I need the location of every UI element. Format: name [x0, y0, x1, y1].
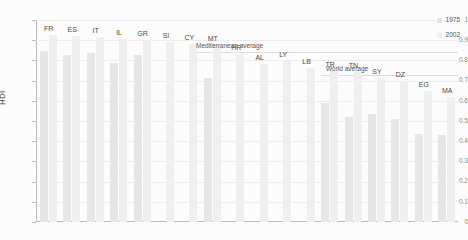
- bar: [134, 55, 142, 222]
- reference-line-label: World average: [326, 66, 368, 73]
- bar-group: [204, 20, 222, 222]
- y-axis-label: HDI: [0, 91, 7, 105]
- bar: [354, 72, 362, 222]
- category-label-ly: LY: [268, 51, 298, 58]
- bar-group: [63, 20, 81, 222]
- y-tick-mark: [32, 222, 36, 223]
- bar: [321, 103, 329, 222]
- reference-line-label: Mediterranean average: [196, 43, 263, 50]
- bar: [368, 114, 376, 222]
- bar: [87, 53, 95, 222]
- bar-group: [134, 20, 152, 222]
- bar-group: [345, 20, 363, 222]
- bar: [40, 51, 48, 222]
- bar: [391, 119, 399, 222]
- legend: 19752002: [437, 16, 460, 46]
- legend-item: 2002: [437, 31, 460, 39]
- bar: [345, 117, 353, 222]
- category-label-mt: MT: [198, 35, 228, 42]
- bar: [260, 64, 268, 222]
- hdi-bar-chart: HDI 10.90.80.70.60.50.40.30.20.10 FRESIT…: [0, 0, 468, 240]
- bar-group: [87, 20, 105, 222]
- bar: [424, 91, 432, 222]
- bar: [72, 36, 80, 222]
- bar: [63, 55, 71, 222]
- bar: [119, 39, 127, 222]
- bar-group: [321, 20, 339, 222]
- bar-group: [40, 20, 58, 222]
- bar: [96, 37, 104, 222]
- bar: [143, 40, 151, 222]
- bar: [189, 44, 197, 222]
- bar-group: [157, 20, 175, 222]
- bar-group: [415, 20, 433, 222]
- legend-swatch: [437, 33, 442, 38]
- bar: [377, 78, 385, 222]
- bar: [204, 78, 212, 222]
- bar-group: [274, 20, 292, 222]
- bar-group: [391, 20, 409, 222]
- legend-item: 1975: [437, 16, 460, 24]
- bar: [415, 134, 423, 222]
- bar: [330, 71, 338, 223]
- bar: [110, 63, 118, 222]
- bar: [166, 42, 174, 222]
- legend-label: 2002: [446, 32, 460, 39]
- bar-group: [298, 20, 316, 222]
- bar-group: [110, 20, 128, 222]
- legend-label: 1975: [446, 17, 460, 24]
- category-label-ma: MA: [432, 87, 462, 94]
- bar-group: [251, 20, 269, 222]
- bar: [213, 45, 221, 222]
- bar: [447, 97, 455, 222]
- category-label-dz: DZ: [385, 71, 415, 78]
- bar-group: [180, 20, 198, 222]
- bar: [400, 81, 408, 222]
- bar-group: [438, 20, 456, 222]
- bar-group: [368, 20, 386, 222]
- bar: [49, 35, 57, 222]
- bar: [438, 135, 446, 222]
- bar: [236, 54, 244, 222]
- bar: [283, 61, 291, 222]
- bar: [307, 68, 315, 222]
- legend-swatch: [437, 18, 442, 23]
